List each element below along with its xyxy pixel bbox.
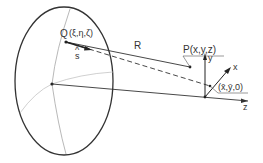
R-label: R (134, 41, 141, 51)
origin-point (204, 96, 207, 99)
R-line (66, 42, 190, 67)
z-axis-label: z (243, 103, 248, 112)
foot-label: (x̄,ȳ,0) (218, 83, 243, 92)
x-axis-label: x (233, 63, 238, 72)
Q-coords-label: (ξ,η,ζ) (69, 29, 93, 38)
Q-label: Q (60, 29, 68, 39)
P-leader (183, 56, 224, 67)
y-axis-label: y (208, 54, 213, 63)
s-hat-label: ^ (75, 46, 79, 55)
Q-point (64, 40, 67, 43)
latitude-curve (20, 72, 113, 113)
